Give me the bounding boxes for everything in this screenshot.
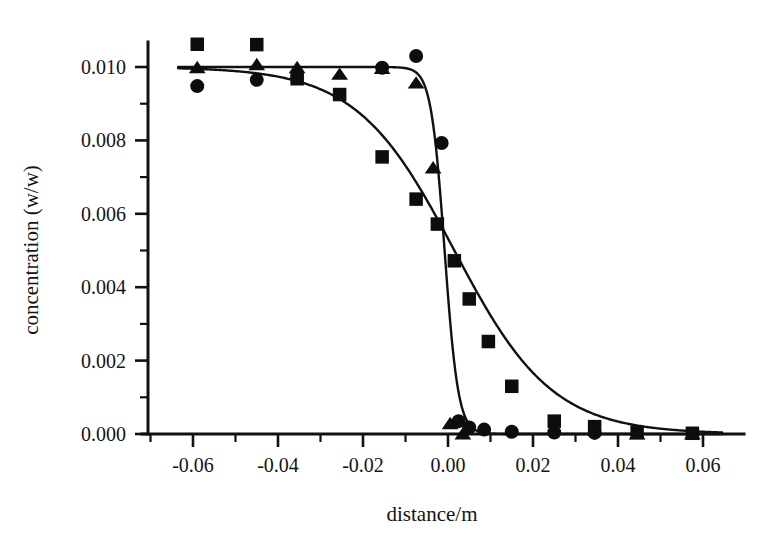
data-point-circle [409,49,423,63]
x-axis-tick-label: 0.00 [431,454,466,476]
axis-labels-layer: 0.0000.0020.0040.0060.0080.010-0.06-0.04… [19,56,721,526]
data-point-square [409,192,423,206]
fit-curve-steep-sigmoid-fit [178,67,722,434]
data-point-square [191,38,205,52]
y-axis-tick-label: 0.002 [81,350,126,372]
data-point-circle [477,423,491,437]
x-axis-tick-label: -0.02 [342,454,384,476]
x-axis-tick-label: 0.06 [686,454,721,476]
x-axis-tick-label: -0.06 [172,454,214,476]
data-point-circle [250,73,264,87]
fit-curve-gradual-sigmoid-fit [178,68,722,432]
data-point-circle [290,71,304,85]
data-point-circle [588,426,602,440]
x-axis-tick-label: -0.04 [257,454,299,476]
x-axis-title: distance/m [387,502,478,526]
data-point-triangle [248,58,265,70]
data-point-circle [190,79,204,93]
data-point-square [375,150,389,164]
x-axis-tick-label: 0.04 [601,454,636,476]
y-axis-tick-label: 0.006 [81,203,126,225]
concentration-vs-distance-chart: 0.0000.0020.0040.0060.0080.010-0.06-0.04… [0,0,784,547]
fit-curves-layer [178,67,722,434]
data-point-square [463,292,477,306]
x-axis-tick-label: 0.02 [516,454,551,476]
data-point-triangle [331,67,348,79]
y-axis-tick-label: 0.010 [81,56,126,78]
data-point-circle [375,61,389,75]
data-point-square [482,335,496,349]
y-axis-title: concentration (w/w) [19,165,43,335]
data-point-square [448,254,462,268]
data-point-circle [462,420,476,434]
y-axis-tick-label: 0.004 [81,276,126,298]
figure-canvas: 0.0000.0020.0040.0060.0080.010-0.06-0.04… [0,0,784,547]
data-point-square [333,88,347,102]
axes-layer [135,42,744,447]
data-point-circle [547,426,561,440]
data-point-square [505,380,519,394]
y-axis-tick-label: 0.000 [81,423,126,445]
data-point-square [250,38,264,52]
y-axis-tick-label: 0.008 [81,129,126,151]
data-point-square [431,217,445,231]
data-point-circle [435,136,449,150]
data-point-circle [505,425,519,439]
